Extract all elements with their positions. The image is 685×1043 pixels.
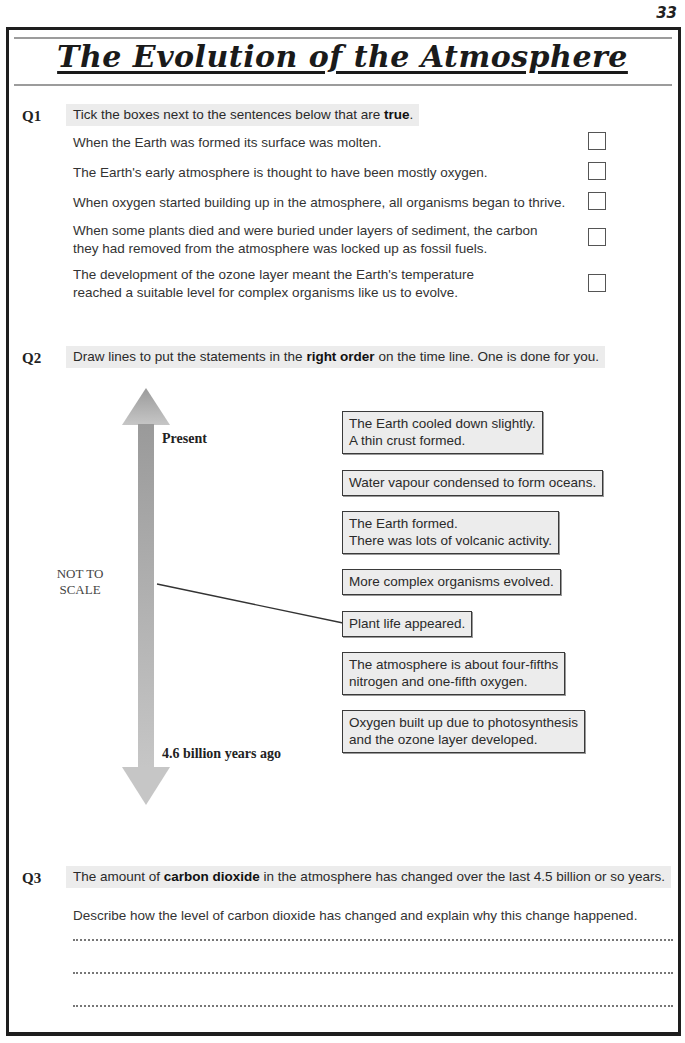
q1-statement-5: The development of the ozone layer meant… <box>73 266 474 302</box>
card-line-1: More complex organisms evolved. <box>349 573 554 590</box>
page-number: 33 <box>656 4 677 22</box>
prompt-emphasis: right order <box>306 349 374 364</box>
q1-checkbox-5[interactable] <box>588 274 606 292</box>
question-1-number: Q1 <box>22 108 41 125</box>
not-to-scale-note: NOT TO SCALE <box>50 566 110 598</box>
card-line-1: Water vapour condensed to form oceans. <box>349 474 596 491</box>
prompt-text: The amount of <box>73 869 164 884</box>
timeline-card-6[interactable]: The atmosphere is about four-fifths nitr… <box>342 652 565 695</box>
prompt-text: Draw lines to put the statements in the <box>73 349 306 364</box>
timeline-card-1[interactable]: The Earth cooled down slightly. A thin c… <box>342 411 543 454</box>
card-line-2: nitrogen and one-fifth oxygen. <box>349 673 558 690</box>
q1-statement-5-line-1: The development of the ozone layer meant… <box>73 266 474 284</box>
q1-statement-2: The Earth's early atmosphere is thought … <box>73 164 488 182</box>
q1-statement-4-line-2: they had removed from the atmosphere was… <box>73 240 538 258</box>
card-line-1: The Earth cooled down slightly. <box>349 415 536 432</box>
timeline-present-label: Present <box>162 431 207 447</box>
card-line-1: The atmosphere is about four-fifths <box>349 656 558 673</box>
q1-statement-1: When the Earth was formed its surface wa… <box>73 134 381 152</box>
answer-line-1[interactable] <box>73 939 673 941</box>
prompt-text-end: . <box>409 107 413 122</box>
card-line-1: Oxygen built up due to photosynthesis <box>349 714 578 731</box>
prompt-text: Tick the boxes next to the sentences bel… <box>73 107 384 122</box>
prompt-emphasis: carbon dioxide <box>164 869 260 884</box>
q1-checkbox-3[interactable] <box>588 192 606 210</box>
q1-statement-4-line-1: When some plants died and were buried un… <box>73 222 538 240</box>
q1-checkbox-4[interactable] <box>588 228 606 246</box>
card-line-1: The Earth formed. <box>349 515 552 532</box>
scale-note-line-1: NOT TO <box>50 566 110 582</box>
title-bottom-rule <box>14 84 672 86</box>
q1-statement-5-line-2: reached a suitable level for complex org… <box>73 284 474 302</box>
scale-note-line-2: SCALE <box>50 582 110 598</box>
q1-statement-3: When oxygen started building up in the a… <box>73 194 565 212</box>
question-3-instruction: Describe how the level of carbon dioxide… <box>73 908 637 923</box>
timeline-card-4[interactable]: More complex organisms evolved. <box>342 569 561 595</box>
card-line-2: and the ozone layer developed. <box>349 731 578 748</box>
q1-checkbox-2[interactable] <box>588 162 606 180</box>
prompt-emphasis: true <box>384 107 410 122</box>
timeline-card-7[interactable]: Oxygen built up due to photosynthesis an… <box>342 710 585 753</box>
card-line-2: There was lots of volcanic activity. <box>349 532 552 549</box>
prompt-text-end: in the atmosphere has changed over the l… <box>260 869 665 884</box>
answer-line-2[interactable] <box>73 972 673 974</box>
card-line-1: Plant life appeared. <box>349 615 465 632</box>
timeline-card-3[interactable]: The Earth formed. There was lots of volc… <box>342 511 559 554</box>
page-title: The Evolution of the Atmosphere <box>0 39 685 74</box>
prompt-text-end: on the time line. One is done for you. <box>375 349 599 364</box>
answer-line-3[interactable] <box>73 1005 673 1007</box>
question-2-number: Q2 <box>22 350 41 367</box>
timeline-origin-label: 4.6 billion years ago <box>162 746 281 762</box>
timeline-card-5-connected[interactable]: Plant life appeared. <box>342 611 472 637</box>
question-3-number: Q3 <box>22 870 41 887</box>
q1-statement-4: When some plants died and were buried un… <box>73 222 538 258</box>
timeline-card-2[interactable]: Water vapour condensed to form oceans. <box>342 470 603 496</box>
card-line-2: A thin crust formed. <box>349 432 536 449</box>
question-2-prompt: Draw lines to put the statements in the … <box>66 346 605 368</box>
question-3-prompt: The amount of carbon dioxide in the atmo… <box>66 866 671 888</box>
question-1-prompt: Tick the boxes next to the sentences bel… <box>66 104 419 126</box>
q1-checkbox-1[interactable] <box>588 132 606 150</box>
